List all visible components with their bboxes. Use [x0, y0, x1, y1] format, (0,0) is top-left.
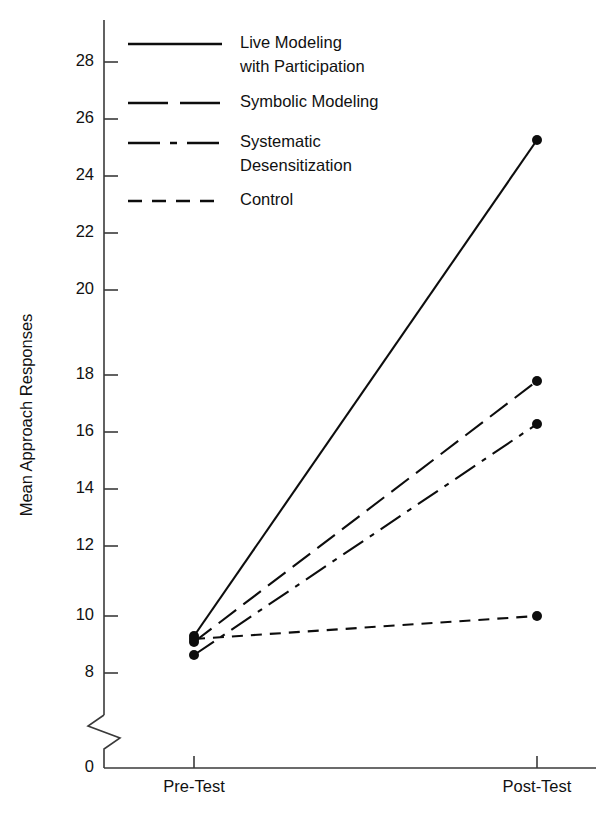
y-tick-label-24: 24	[76, 165, 94, 183]
y-tick-label-16: 16	[76, 421, 94, 439]
series-line-symbolic-modeling	[194, 381, 537, 642]
y-tick-label-12: 12	[76, 535, 94, 553]
y-tick-label-28: 28	[76, 51, 94, 69]
y-tick-label-14: 14	[76, 478, 94, 496]
legend-label-systematic-desensitization-line2: Desensitization	[240, 156, 352, 174]
legend-label-control-line1: Control	[240, 190, 293, 208]
y-tick-label-26: 26	[76, 108, 94, 126]
data-point-control-post	[532, 611, 542, 621]
x-tick-label-post-test: Post-Test	[503, 777, 572, 795]
data-point-live-modeling-post	[532, 135, 542, 145]
data-point-systematic-desensitization-pre	[189, 650, 199, 660]
y-tick-label-20: 20	[76, 279, 94, 297]
data-point-control-pre	[189, 634, 199, 644]
x-tick-label-pre-test: Pre-Test	[163, 777, 225, 795]
line-chart-svg: 28 26 24 22 20 18 16 14 12 10 8 0 Pre-Te…	[0, 0, 609, 822]
y-tick-label-10: 10	[76, 605, 94, 623]
legend-label-live-modeling-line2: with Participation	[239, 57, 365, 75]
y-tick-label-0: 0	[85, 757, 94, 775]
legend-label-symbolic-modeling-line1: Symbolic Modeling	[240, 92, 378, 110]
legend-label-live-modeling-line1: Live Modeling	[240, 33, 342, 51]
data-point-symbolic-modeling-post	[532, 376, 542, 386]
series-line-live-modeling	[194, 140, 537, 636]
y-tick-label-18: 18	[76, 364, 94, 382]
chart-legend: Live Modeling with Participation Symboli…	[128, 33, 378, 208]
legend-label-systematic-desensitization-line1: Systematic	[240, 132, 321, 150]
chart-figure: 28 26 24 22 20 18 16 14 12 10 8 0 Pre-Te…	[0, 0, 609, 822]
y-axis-title: Mean Approach Responses	[17, 314, 35, 517]
data-point-systematic-desensitization-post	[532, 419, 542, 429]
y-tick-label-8: 8	[85, 662, 94, 680]
y-tick-label-22: 22	[76, 222, 94, 240]
